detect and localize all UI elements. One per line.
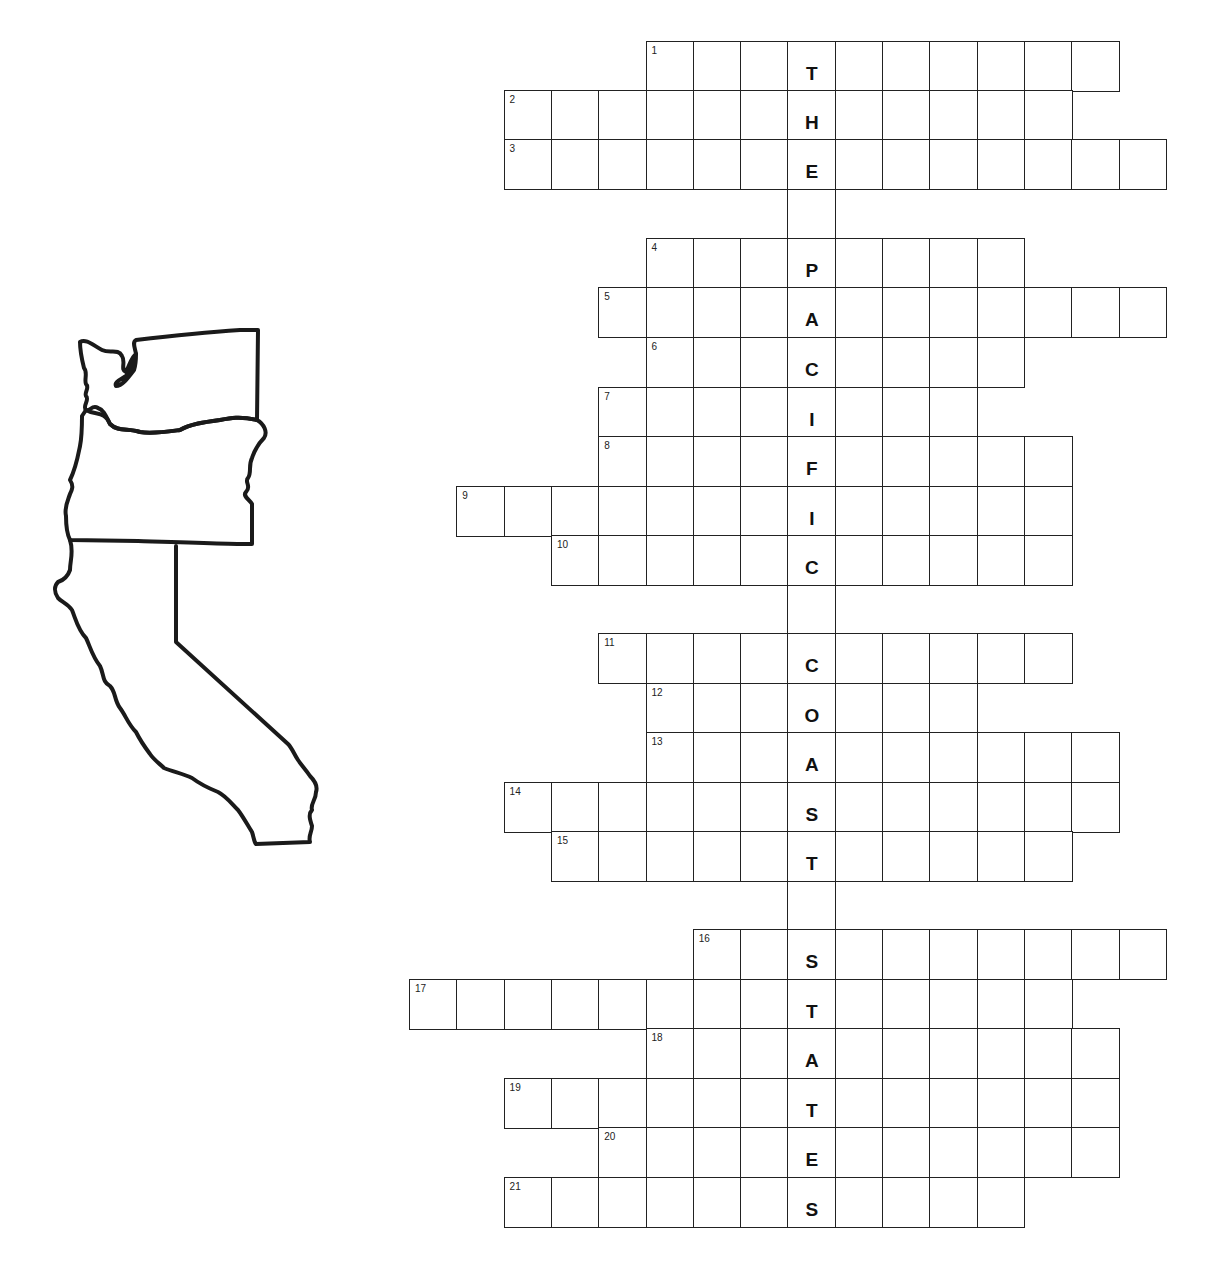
crossword-cell[interactable] xyxy=(929,535,978,586)
crossword-cell[interactable] xyxy=(929,238,978,289)
crossword-cell[interactable] xyxy=(740,732,789,783)
crossword-cell[interactable] xyxy=(929,979,978,1030)
crossword-cell[interactable] xyxy=(882,139,931,190)
crossword-cell[interactable] xyxy=(882,535,931,586)
crossword-cell[interactable] xyxy=(882,732,931,783)
crossword-cell[interactable] xyxy=(929,287,978,338)
crossword-cell[interactable] xyxy=(929,337,978,388)
crossword-cell[interactable] xyxy=(551,979,600,1030)
crossword-cell[interactable] xyxy=(977,929,1026,980)
crossword-cell[interactable] xyxy=(646,139,695,190)
crossword-cell[interactable] xyxy=(598,139,647,190)
crossword-cell[interactable] xyxy=(693,486,742,537)
crossword-cell[interactable]: 2 xyxy=(504,90,553,141)
crossword-cell[interactable] xyxy=(929,683,978,734)
crossword-cell[interactable]: 20 xyxy=(598,1127,647,1178)
crossword-cell[interactable] xyxy=(693,436,742,487)
crossword-cell[interactable] xyxy=(1071,139,1120,190)
crossword-cell[interactable]: 19 xyxy=(504,1078,553,1129)
crossword-cell[interactable] xyxy=(646,1177,695,1228)
crossword-cell[interactable] xyxy=(646,831,695,882)
crossword-cell[interactable] xyxy=(1024,929,1073,980)
crossword-cell[interactable]: P xyxy=(787,238,836,289)
crossword-cell[interactable] xyxy=(1071,732,1120,783)
crossword-cell[interactable] xyxy=(835,1127,884,1178)
crossword-cell[interactable]: 13 xyxy=(646,732,695,783)
crossword-cell[interactable] xyxy=(977,831,1026,882)
crossword-cell[interactable] xyxy=(1071,41,1120,92)
crossword-cell[interactable] xyxy=(1119,287,1168,338)
crossword-cell[interactable] xyxy=(977,535,1026,586)
crossword-cell[interactable] xyxy=(882,41,931,92)
crossword-cell[interactable] xyxy=(646,782,695,833)
crossword-cell[interactable] xyxy=(1024,1078,1073,1129)
crossword-cell[interactable] xyxy=(835,1177,884,1228)
crossword-cell[interactable]: 5 xyxy=(598,287,647,338)
crossword-cell[interactable]: S xyxy=(787,1177,836,1228)
crossword-cell[interactable] xyxy=(598,782,647,833)
crossword-cell[interactable]: T xyxy=(787,1078,836,1129)
crossword-cell[interactable]: C xyxy=(787,337,836,388)
crossword-cell[interactable]: T xyxy=(787,41,836,92)
crossword-cell[interactable]: H xyxy=(787,90,836,141)
crossword-cell[interactable] xyxy=(835,1078,884,1129)
crossword-cell[interactable] xyxy=(693,1177,742,1228)
crossword-cell[interactable] xyxy=(740,929,789,980)
crossword-cell[interactable] xyxy=(456,979,505,1030)
crossword-cell[interactable] xyxy=(977,1028,1026,1079)
crossword-cell[interactable] xyxy=(693,90,742,141)
crossword-cell[interactable] xyxy=(646,1127,695,1178)
crossword-cell[interactable] xyxy=(835,633,884,684)
crossword-cell[interactable]: 4 xyxy=(646,238,695,289)
crossword-cell[interactable] xyxy=(551,1177,600,1228)
crossword-cell[interactable] xyxy=(1071,782,1120,833)
crossword-cell[interactable]: 3 xyxy=(504,139,553,190)
crossword-cell[interactable]: 14 xyxy=(504,782,553,833)
crossword-cell[interactable] xyxy=(929,1078,978,1129)
crossword-cell[interactable] xyxy=(740,1127,789,1178)
crossword-cell[interactable] xyxy=(1071,1127,1120,1178)
crossword-cell[interactable]: E xyxy=(787,139,836,190)
crossword-cell[interactable]: E xyxy=(787,1127,836,1178)
crossword-cell[interactable] xyxy=(977,486,1026,537)
crossword-cell[interactable] xyxy=(882,633,931,684)
crossword-cell[interactable]: 21 xyxy=(504,1177,553,1228)
crossword-cell[interactable] xyxy=(646,979,695,1030)
crossword-cell[interactable] xyxy=(882,287,931,338)
crossword-cell[interactable] xyxy=(504,486,553,537)
crossword-cell[interactable] xyxy=(740,831,789,882)
crossword-cell[interactable]: I xyxy=(787,486,836,537)
crossword-cell[interactable] xyxy=(835,535,884,586)
crossword-cell[interactable]: A xyxy=(787,732,836,783)
crossword-cell[interactable] xyxy=(646,287,695,338)
crossword-cell[interactable] xyxy=(740,139,789,190)
crossword-cell[interactable] xyxy=(929,41,978,92)
crossword-cell[interactable] xyxy=(929,1028,978,1079)
crossword-cell[interactable] xyxy=(646,1078,695,1129)
crossword-cell[interactable]: 10 xyxy=(551,535,600,586)
crossword-cell[interactable] xyxy=(693,831,742,882)
crossword-cell[interactable] xyxy=(1071,287,1120,338)
crossword-cell[interactable] xyxy=(929,732,978,783)
crossword-cell[interactable] xyxy=(835,337,884,388)
crossword-cell[interactable] xyxy=(929,1177,978,1228)
crossword-cell[interactable] xyxy=(835,782,884,833)
crossword-cell[interactable] xyxy=(740,90,789,141)
crossword-cell[interactable] xyxy=(977,782,1026,833)
crossword-cell[interactable] xyxy=(929,486,978,537)
crossword-cell[interactable] xyxy=(929,782,978,833)
crossword-cell[interactable] xyxy=(977,238,1026,289)
crossword-cell[interactable] xyxy=(977,633,1026,684)
crossword-cell[interactable]: 8 xyxy=(598,436,647,487)
crossword-cell[interactable] xyxy=(977,1127,1026,1178)
crossword-cell[interactable] xyxy=(929,387,978,438)
crossword-cell[interactable] xyxy=(977,41,1026,92)
crossword-cell[interactable] xyxy=(693,633,742,684)
crossword-cell[interactable] xyxy=(598,1177,647,1228)
crossword-cell[interactable] xyxy=(882,1028,931,1079)
crossword-cell[interactable]: 11 xyxy=(598,633,647,684)
crossword-cell[interactable] xyxy=(882,1127,931,1178)
crossword-cell[interactable] xyxy=(1071,929,1120,980)
crossword-cell[interactable] xyxy=(740,337,789,388)
crossword-cell[interactable] xyxy=(693,535,742,586)
